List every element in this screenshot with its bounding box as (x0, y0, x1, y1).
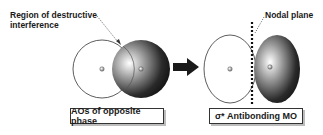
destructive-interference-label: Region of destructive interference (10, 10, 97, 30)
caption-right-text: σ* Antibonding MO (215, 111, 297, 121)
destructive-label-line2: interference (10, 20, 97, 30)
callout-pointer (97, 16, 118, 42)
nodal-plane-label: Nodal plane (265, 10, 313, 20)
right-arrow-icon (173, 58, 199, 76)
nucleus-icon (139, 67, 143, 71)
nodal-callout-pointer (255, 17, 264, 33)
mo-shaded-lobe (254, 35, 300, 103)
nucleus-icon (268, 65, 272, 69)
nucleus-icon (228, 67, 232, 71)
caption-left-text: AOs of opposite phase (71, 106, 163, 126)
caption-ao-opposite-phase: AOs of opposite phase (70, 108, 164, 124)
nucleus-icon (100, 67, 104, 71)
destructive-label-line1: Region of destructive (10, 10, 97, 20)
caption-antibonding-mo: σ* Antibonding MO (209, 108, 303, 124)
